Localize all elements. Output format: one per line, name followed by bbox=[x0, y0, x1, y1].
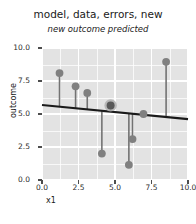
data-point bbox=[72, 82, 80, 90]
data-overlay bbox=[0, 0, 196, 224]
data-point bbox=[56, 69, 64, 77]
new-point bbox=[107, 101, 115, 109]
data-point bbox=[98, 150, 106, 158]
data-point bbox=[162, 58, 170, 66]
chart-container: model, data, errors, new new outcome pre… bbox=[0, 0, 196, 224]
data-point bbox=[125, 161, 133, 169]
data-point bbox=[140, 110, 148, 118]
data-point bbox=[129, 135, 137, 143]
data-point bbox=[83, 89, 91, 97]
